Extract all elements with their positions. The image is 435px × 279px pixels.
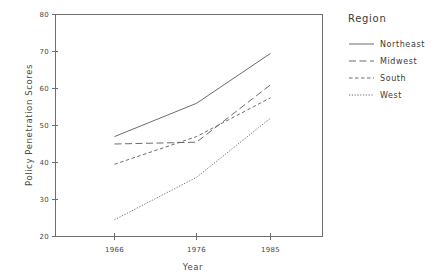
legend-title: Region xyxy=(348,13,386,24)
x-axis-title: Year xyxy=(182,262,203,272)
y-tick-label-50: 50 xyxy=(39,122,49,130)
legend-item-northeast[interactable]: Northeast xyxy=(349,40,425,49)
data-series-group xyxy=(115,53,271,219)
legend: Region Northeast Midwest South West xyxy=(348,13,425,100)
y-tick-label-60: 60 xyxy=(39,85,49,93)
series-line-northeast xyxy=(115,53,271,136)
y-axis-tick-labels: 80 70 60 50 40 30 20 xyxy=(39,11,49,241)
y-tick-label-80: 80 xyxy=(39,11,49,19)
y-tick-label-70: 70 xyxy=(39,48,49,56)
legend-item-midwest[interactable]: Midwest xyxy=(349,57,417,66)
y-tick-label-40: 40 xyxy=(39,159,49,167)
legend-label-west: West xyxy=(380,91,402,100)
chart-container: 80 70 60 50 40 30 20 1966 1976 1985 Year… xyxy=(0,0,435,279)
legend-item-west[interactable]: West xyxy=(349,91,402,100)
series-line-south xyxy=(115,98,271,165)
legend-item-south[interactable]: South xyxy=(349,74,406,83)
legend-label-midwest: Midwest xyxy=(380,57,417,66)
plot-frame xyxy=(56,15,323,237)
x-tick-label-1976: 1976 xyxy=(187,246,206,254)
x-axis-tick-labels: 1966 1976 1985 xyxy=(105,246,280,254)
legend-label-northeast: Northeast xyxy=(380,40,425,49)
series-line-west xyxy=(115,118,271,220)
x-tick-label-1985: 1985 xyxy=(261,246,280,254)
x-tick-label-1966: 1966 xyxy=(105,246,124,254)
legend-label-south: South xyxy=(380,74,406,83)
line-chart-figure: 80 70 60 50 40 30 20 1966 1976 1985 Year… xyxy=(0,0,435,279)
y-axis-title: Policy Penetration Scores xyxy=(24,64,34,186)
y-tick-label-20: 20 xyxy=(39,233,49,241)
series-line-midwest xyxy=(115,85,271,144)
y-tick-label-30: 30 xyxy=(39,196,49,204)
